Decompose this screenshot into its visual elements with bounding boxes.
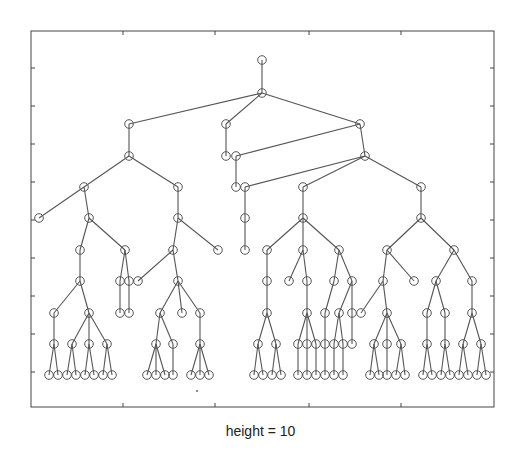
- tree-edge: [303, 218, 339, 250]
- tree-edge: [298, 313, 307, 344]
- tree-edge: [387, 313, 401, 344]
- tree-edge: [436, 281, 445, 313]
- tree-edge: [387, 218, 421, 250]
- tree-edge: [129, 156, 178, 187]
- tree-edge: [307, 313, 316, 344]
- tree-edge: [89, 313, 107, 344]
- tree-edge: [178, 218, 218, 250]
- tree-edge: [72, 313, 89, 344]
- tree-edge: [339, 281, 352, 313]
- tree-edge: [360, 124, 365, 156]
- tree-edge: [339, 250, 352, 281]
- tree-edge: [258, 313, 267, 344]
- tree-edge: [262, 93, 360, 124]
- tree-edge: [89, 218, 125, 250]
- tree-edge: [200, 344, 209, 375]
- tree-edge: [160, 313, 173, 344]
- tree-edge: [289, 250, 303, 281]
- tree-edge: [454, 250, 472, 281]
- tree-edge: [80, 218, 89, 250]
- tree-edge: [236, 124, 360, 156]
- chart-caption: height = 10: [0, 423, 521, 439]
- tree-edge: [267, 313, 276, 344]
- tree-edge: [463, 313, 472, 344]
- tree-edge: [245, 156, 365, 187]
- tree-edge: [147, 344, 156, 375]
- tree-edge: [383, 281, 387, 313]
- tree-edge: [436, 250, 454, 281]
- tree-edge: [39, 187, 84, 218]
- tree-plot: [0, 0, 521, 452]
- tree-edge: [427, 281, 436, 313]
- tree-edge: [267, 218, 303, 250]
- tree-edge: [303, 156, 365, 187]
- tree-edge: [84, 156, 129, 187]
- tree-edge: [173, 218, 178, 250]
- tree-edge: [374, 313, 387, 344]
- tree-edge: [129, 93, 262, 124]
- tree-nodes: [35, 56, 491, 392]
- stray-dot: [196, 390, 198, 392]
- tree-edge: [325, 281, 334, 313]
- tree-edge: [138, 250, 173, 281]
- tree-edge: [54, 281, 80, 313]
- tree-edge: [156, 344, 165, 375]
- tree-edges: [39, 60, 486, 375]
- tree-edge: [421, 218, 454, 250]
- tree-edge: [160, 281, 178, 313]
- tree-edge: [472, 313, 481, 344]
- tree-edge: [387, 250, 414, 281]
- tree-edge: [191, 344, 200, 375]
- tree-edge: [80, 281, 89, 313]
- tree-edge: [365, 156, 421, 187]
- tree-edge: [361, 281, 383, 313]
